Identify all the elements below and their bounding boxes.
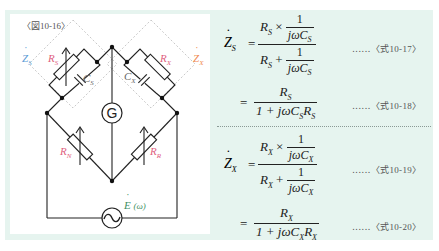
eq18-equals: = (240, 95, 247, 111)
galvanometer-icon: G (102, 103, 122, 123)
eq19-equals: = (248, 157, 255, 173)
eq20-equals: = (240, 216, 247, 232)
cx-capacitor (138, 74, 151, 87)
equation-divider (217, 126, 431, 127)
eq18-fraction: RS 1 + jωCSRS (254, 84, 317, 120)
rr-label: RR (150, 145, 161, 160)
eq19-lhs: ZX (224, 156, 237, 174)
eq20-ref: ‥‥‥〈式10-20〉 (352, 220, 421, 233)
source-label: E (ω) (124, 199, 146, 211)
ac-source-icon (102, 208, 122, 228)
bridge-circuit: G (0, 0, 220, 251)
rx-label: RX (160, 52, 171, 67)
zs-label: ZS (22, 52, 32, 67)
cs-label: CS (83, 72, 94, 87)
rn-label: RN (60, 145, 71, 160)
eq17-ref: ‥‥‥〈式10-17〉 (352, 42, 421, 55)
cx-label: CX (124, 70, 136, 85)
eq17-equals: = (248, 36, 255, 52)
zx-label: ZX (193, 52, 203, 67)
rs-label: RS (48, 52, 58, 67)
eq17-lhs: ZS (224, 35, 236, 53)
eq20-fraction: RX 1 + jωCXRX (254, 205, 319, 241)
eq19-fraction: RX × 1jωCX RX + 1jωCX (258, 132, 317, 198)
eq18-ref: ‥‥‥〈式10-18〉 (352, 99, 421, 112)
svg-text:G: G (107, 105, 118, 121)
eq17-fraction: RS × 1jωCS RS + 1jωCS (258, 12, 316, 78)
eq19-ref: ‥‥‥〈式10-19〉 (352, 163, 421, 176)
